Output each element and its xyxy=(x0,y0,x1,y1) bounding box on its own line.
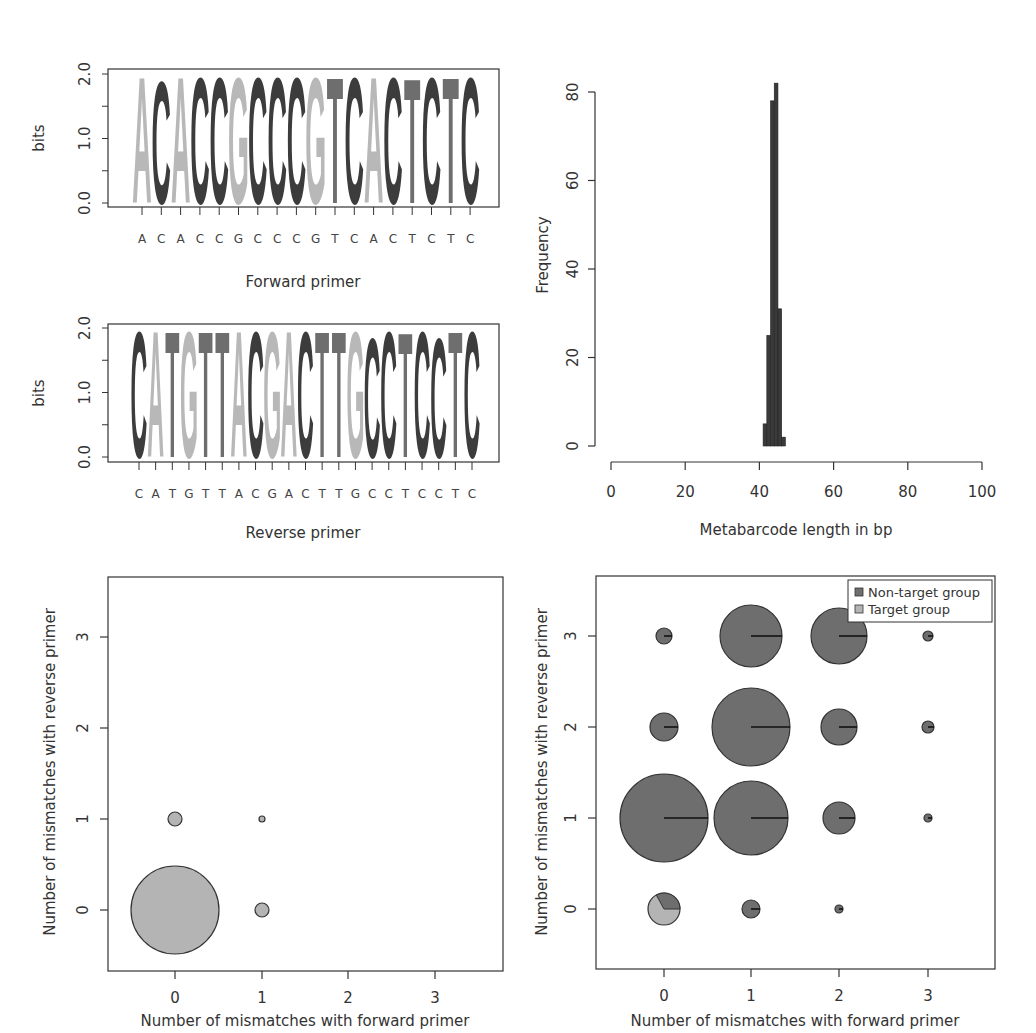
x-tick-label: 1 xyxy=(257,989,267,1007)
x-tick-label: 40 xyxy=(750,483,769,501)
sequence-tick-label: A xyxy=(285,487,294,501)
sequence-tick-label: C xyxy=(389,232,397,246)
mismatch-target-points xyxy=(131,812,269,954)
y-tick-label: 1 xyxy=(74,814,92,824)
forward-primer-logo-panel: ACACCGCCCGTCACTCTC 0.01.02.0 ACACCGCCCGT… xyxy=(30,41,499,291)
y-tick-label: 0 xyxy=(562,904,580,914)
sequence-tick-label: G xyxy=(311,232,320,246)
histogram-xlabel: Metabarcode length in bp xyxy=(700,521,893,539)
forward-logo-y-axis: 0.01.02.0 xyxy=(76,62,108,215)
y-tick-label: 3 xyxy=(74,632,92,642)
y-tick-label: 3 xyxy=(562,631,580,641)
legend-label-target: Target group xyxy=(867,602,950,617)
sequence-tick-label: C xyxy=(468,487,476,501)
bubble-target xyxy=(168,812,182,826)
y-tick-label: 80 xyxy=(564,82,582,101)
y-tick-label: 0 xyxy=(74,905,92,915)
x-tick-label: 60 xyxy=(824,483,843,501)
sequence-tick-label: T xyxy=(218,487,227,501)
y-tick-label: 2 xyxy=(74,723,92,733)
sequence-tick-label: C xyxy=(215,232,223,246)
sequence-tick-label: A xyxy=(152,487,161,501)
mismatch-target-ylabel: Number of mismatches with reverse primer xyxy=(41,607,59,936)
sequence-tick-label: G xyxy=(351,487,360,501)
length-histogram-panel: 020406080100020406080 Metabarcode length… xyxy=(534,82,996,539)
forward-logo-letters: ACACCGCCCGTCACTCTC xyxy=(132,41,480,241)
x-tick-label: 20 xyxy=(676,483,695,501)
y-tick-label: 1.0 xyxy=(76,127,94,151)
x-tick-label: 0 xyxy=(606,483,616,501)
x-tick-label: 0 xyxy=(170,989,180,1007)
bubble-target xyxy=(255,903,269,917)
sequence-tick-label: C xyxy=(157,232,165,246)
sequence-tick-label: T xyxy=(330,232,339,246)
legend-swatch-target xyxy=(855,605,863,613)
sequence-tick-label: C xyxy=(368,487,376,501)
x-tick-label: 2 xyxy=(343,989,353,1007)
x-tick-label: 0 xyxy=(659,987,669,1005)
sequence-tick-label: T xyxy=(401,487,410,501)
y-tick-label: 60 xyxy=(564,171,582,190)
sequence-tick-label: T xyxy=(201,487,210,501)
sequence-tick-label: A xyxy=(138,232,147,246)
sequence-tick-label: A xyxy=(176,232,185,246)
bubble-target xyxy=(259,816,265,822)
legend-label-non-target: Non-target group xyxy=(868,585,980,600)
figure-canvas: ACACCGCCCGTCACTCTC 0.01.02.0 ACACCGCCCGT… xyxy=(0,0,1036,1033)
sequence-tick-label: C xyxy=(196,232,204,246)
sequence-tick-label: C xyxy=(251,487,259,501)
reverse-logo-y-axis: 0.01.02.0 xyxy=(76,316,108,469)
histogram-bar xyxy=(782,437,786,446)
x-tick-label: 3 xyxy=(430,989,440,1007)
sequence-tick-label: T xyxy=(408,232,417,246)
sequence-tick-label: C xyxy=(292,232,300,246)
sequence-tick-label: T xyxy=(168,487,177,501)
x-tick-label: 3 xyxy=(923,987,933,1005)
mismatch-all-panel: 01230123 Non-target group Target group N… xyxy=(533,576,995,1030)
sequence-tick-label: C xyxy=(385,487,393,501)
y-tick-label: 1.0 xyxy=(76,381,94,405)
y-tick-label: 0 xyxy=(564,441,582,451)
y-tick-label: 2 xyxy=(562,722,580,732)
reverse-primer-xlabel: Reverse primer xyxy=(246,524,362,542)
bubble-target xyxy=(131,866,219,954)
y-tick-label: 2.0 xyxy=(76,62,94,86)
sequence-tick-label: T xyxy=(446,232,455,246)
x-tick-label: 100 xyxy=(968,483,997,501)
mismatch-target-axes: 01230123 xyxy=(74,632,440,1007)
y-tick-label: 1 xyxy=(562,813,580,823)
forward-bits-ylabel: bits xyxy=(30,124,48,152)
sequence-tick-label: C xyxy=(435,487,443,501)
x-tick-label: 2 xyxy=(834,987,844,1005)
mismatch-target-panel: 01230123 Number of mismatches with forwa… xyxy=(41,577,503,1030)
sequence-tick-label: C xyxy=(254,232,262,246)
sequence-tick-label: T xyxy=(317,487,326,501)
y-tick-label: 2.0 xyxy=(76,316,94,340)
sequence-tick-label: C xyxy=(135,487,143,501)
sequence-tick-label: T xyxy=(451,487,460,501)
histogram-bar xyxy=(778,309,782,446)
histogram-bar xyxy=(767,335,771,446)
y-tick-label: 20 xyxy=(564,348,582,367)
sequence-tick-label: A xyxy=(235,487,244,501)
sequence-tick-label: G xyxy=(184,487,193,501)
x-tick-label: 1 xyxy=(746,987,756,1005)
y-tick-label: 0.0 xyxy=(76,445,94,469)
sequence-tick-label: T xyxy=(334,487,343,501)
mismatch-all-xlabel: Number of mismatches with forward primer xyxy=(631,1012,961,1030)
sequence-tick-label: C xyxy=(427,232,435,246)
forward-primer-xlabel: Forward primer xyxy=(246,273,362,291)
reverse-bits-ylabel: bits xyxy=(30,379,48,407)
mismatch-target-xlabel: Number of mismatches with forward primer xyxy=(141,1012,471,1030)
sequence-tick-label: C xyxy=(350,232,358,246)
sequence-tick-label: C xyxy=(466,232,474,246)
mismatch-all-points xyxy=(620,605,934,925)
reverse-primer-logo-panel: CATGTTACGACTTGCCTCCTC 0.01.02.0 CATGTTAC… xyxy=(30,294,499,542)
y-tick-label: 0.0 xyxy=(76,191,94,215)
histogram-bar xyxy=(771,101,775,446)
histogram-bars xyxy=(763,83,785,446)
x-tick-label: 80 xyxy=(898,483,917,501)
legend: Non-target group Target group xyxy=(848,580,992,622)
sequence-tick-label: C xyxy=(418,487,426,501)
sequence-tick-label: G xyxy=(234,232,243,246)
